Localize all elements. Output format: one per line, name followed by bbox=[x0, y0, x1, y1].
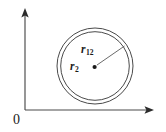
label-r12-base: r bbox=[81, 43, 85, 55]
radius-vector-line bbox=[97, 46, 125, 65]
center-point-dot bbox=[93, 65, 97, 69]
label-r2-base: r bbox=[70, 60, 74, 72]
label-r12: r12 bbox=[81, 44, 93, 56]
diagram-svg bbox=[0, 0, 166, 132]
label-r12-subscript: 12 bbox=[86, 48, 94, 57]
label-r2-subscript: 2 bbox=[75, 65, 79, 74]
figure-canvas: r12 r2 0 bbox=[0, 0, 166, 132]
origin-label: 0 bbox=[13, 113, 20, 127]
label-r2: r2 bbox=[70, 61, 78, 73]
